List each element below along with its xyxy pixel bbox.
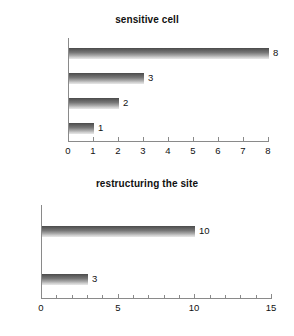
x-axis-tick-label: 1 <box>81 145 105 156</box>
x-axis-tick <box>243 137 244 142</box>
x-axis-line <box>41 298 272 299</box>
bar <box>69 48 269 59</box>
x-axis-tick <box>72 295 73 299</box>
x-axis-tick <box>194 294 195 299</box>
x-axis-tick <box>118 137 119 142</box>
x-axis-tick <box>118 294 119 299</box>
bar <box>69 98 119 109</box>
x-axis-tick-label: 4 <box>156 145 180 156</box>
x-axis-tick-label: 15 <box>259 302 283 313</box>
bar <box>69 73 144 84</box>
x-axis-tick-label: 0 <box>56 145 80 156</box>
x-axis-tick <box>210 295 211 299</box>
x-axis-tick <box>179 295 180 299</box>
x-axis-tick-label: 10 <box>182 302 206 313</box>
x-axis-tick-label: 6 <box>206 145 230 156</box>
x-axis-tick <box>102 295 103 299</box>
x-axis-tick-label: 5 <box>106 302 130 313</box>
x-axis-tick-label: 5 <box>181 145 205 156</box>
bar-value-label: 3 <box>92 273 97 284</box>
x-axis-tick <box>218 137 219 142</box>
x-axis-tick <box>148 295 149 299</box>
chart-title: sensitive cell <box>0 14 294 25</box>
x-axis-tick-label: 7 <box>231 145 255 156</box>
x-axis-tick-label: 8 <box>256 145 280 156</box>
bar-value-label: 2 <box>123 97 128 108</box>
x-axis-tick <box>133 295 134 299</box>
bar-value-label: 3 <box>148 72 153 83</box>
x-axis-tick <box>56 295 57 299</box>
bar-value-label: 1 <box>98 122 103 133</box>
x-axis-tick <box>87 295 88 299</box>
x-axis-tick <box>143 137 144 142</box>
x-axis-tick <box>68 137 69 142</box>
x-axis-tick <box>268 137 269 142</box>
x-axis-tick-label: 3 <box>131 145 155 156</box>
x-axis-tick <box>93 137 94 142</box>
x-axis-tick <box>193 137 194 142</box>
bar <box>42 274 88 285</box>
x-axis-tick <box>271 294 272 299</box>
bar <box>69 123 94 134</box>
x-axis-tick <box>256 295 257 299</box>
x-axis-tick <box>225 295 226 299</box>
x-axis-tick <box>164 295 165 299</box>
x-axis-tick <box>168 137 169 142</box>
x-axis-tick <box>41 294 42 299</box>
x-axis-tick-label: 2 <box>106 145 130 156</box>
x-axis-tick-label: 0 <box>29 302 53 313</box>
bar <box>42 226 195 237</box>
chart-title: restructuring the site <box>0 178 294 189</box>
bar-value-label: 10 <box>199 225 210 236</box>
x-axis-tick <box>240 295 241 299</box>
bar-value-label: 8 <box>273 47 278 58</box>
